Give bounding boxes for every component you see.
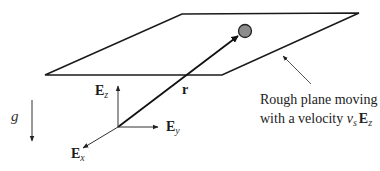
ey-symbol: E — [166, 119, 175, 134]
velocity-direction: E — [359, 111, 368, 126]
label-g: g — [11, 109, 19, 124]
particle — [239, 25, 252, 38]
plane-annotation-line2: with a velocity vsEz — [260, 109, 377, 129]
velocity-prefix: with a velocity — [260, 111, 347, 126]
ez-subscript: z — [104, 89, 108, 100]
ey-subscript: y — [175, 125, 179, 136]
diagram-canvas — [0, 0, 380, 171]
label-ey: Ey — [166, 120, 180, 134]
velocity-subscript: s — [353, 117, 357, 128]
plane-annotation: Rough plane moving with a velocity vsEz — [260, 90, 377, 129]
velocity-direction-subscript: z — [368, 117, 372, 128]
label-ez: Ez — [95, 84, 108, 98]
velocity-symbol: v — [347, 111, 353, 126]
annotation-pointer — [283, 56, 311, 84]
ex-symbol: E — [71, 146, 80, 161]
plane-annotation-line1: Rough plane moving — [260, 90, 377, 109]
basis-vector-ex — [83, 127, 118, 148]
label-r: r — [182, 83, 188, 97]
position-vector-r — [118, 36, 238, 127]
ez-symbol: E — [95, 83, 104, 98]
label-ex: Ex — [71, 147, 85, 161]
ex-subscript: x — [80, 152, 84, 163]
rough-plane — [45, 13, 359, 75]
